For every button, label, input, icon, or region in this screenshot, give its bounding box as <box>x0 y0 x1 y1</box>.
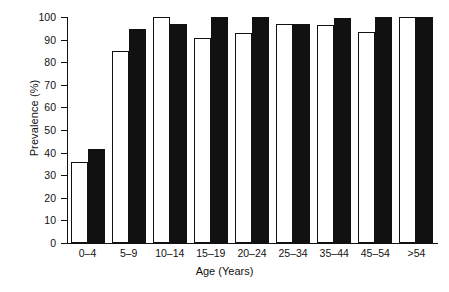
bar-filled-6 <box>334 18 351 243</box>
y-axis-tick-label: 10 <box>16 215 56 225</box>
y-axis-tick-label: 40 <box>16 148 56 158</box>
y-axis-tick-label: 100 <box>16 12 56 22</box>
bar-filled-0 <box>88 149 105 243</box>
y-axis-line <box>67 17 68 244</box>
bar-group <box>399 17 433 243</box>
bar-open-4 <box>235 33 252 243</box>
y-axis-tick <box>61 62 67 63</box>
bar-filled-2 <box>170 24 187 243</box>
y-axis-tick <box>61 130 67 131</box>
bar-open-3 <box>194 38 211 243</box>
y-axis-tick-label: 30 <box>16 170 56 180</box>
bar-chart: Prevalence (%) 1009080706050403020100 0–… <box>0 0 449 292</box>
y-axis-tick <box>61 40 67 41</box>
y-axis-tick-label: 20 <box>16 193 56 203</box>
y-axis-tick <box>61 243 67 244</box>
bar-open-0 <box>71 162 88 243</box>
x-axis-title: Age (Years) <box>0 265 449 277</box>
bar-group <box>276 17 310 243</box>
y-axis-tick <box>61 198 67 199</box>
bar-open-1 <box>112 51 129 243</box>
bar-open-6 <box>317 25 334 243</box>
bar-group <box>153 17 187 243</box>
y-axis-tick <box>61 153 67 154</box>
bar-group <box>71 17 105 243</box>
bar-open-5 <box>276 24 293 243</box>
x-axis-tick-label: >54 <box>386 247 446 259</box>
y-axis-tick <box>61 17 67 18</box>
bar-open-8 <box>399 17 416 243</box>
y-axis-tick-label: 0 <box>16 238 56 248</box>
bar-filled-3 <box>211 17 228 243</box>
bar-filled-5 <box>293 24 310 243</box>
bar-group <box>194 17 228 243</box>
y-axis-tick-label: 70 <box>16 80 56 90</box>
x-axis-line <box>67 243 438 244</box>
bar-filled-4 <box>252 17 269 243</box>
y-axis-tick <box>61 85 67 86</box>
y-axis-tick-label: 80 <box>16 57 56 67</box>
bar-open-2 <box>153 17 170 243</box>
bar-filled-1 <box>129 29 146 243</box>
bar-group <box>317 17 351 243</box>
y-axis-tick <box>61 175 67 176</box>
bar-filled-8 <box>416 17 433 243</box>
bar-group <box>358 17 392 243</box>
bar-open-7 <box>358 32 375 243</box>
y-axis-tick <box>61 220 67 221</box>
y-axis-title: Prevalence (%) <box>28 28 40 208</box>
y-axis-tick <box>61 107 67 108</box>
bar-group <box>112 17 146 243</box>
y-axis-tick-label: 60 <box>16 102 56 112</box>
bar-group <box>235 17 269 243</box>
y-axis-tick-label: 50 <box>16 125 56 135</box>
bar-filled-7 <box>375 17 392 243</box>
y-axis-tick-label: 90 <box>16 35 56 45</box>
